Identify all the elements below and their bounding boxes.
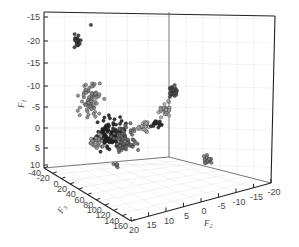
vertical-tick-label: 5 <box>35 143 40 153</box>
vertical-tick-label: 0 <box>35 123 40 133</box>
cluster-6 <box>136 120 151 133</box>
horizontal-tick-label: -15 <box>250 192 263 202</box>
horizontal-tick-label: 20 <box>129 225 139 235</box>
depth-axis-title: F3 <box>55 203 69 217</box>
depth-tick-label: -20 <box>37 173 50 183</box>
horizontal-tick-label: 5 <box>184 211 189 221</box>
horizontal-tick-label: 15 <box>146 220 156 230</box>
vertical-tick-label: -5 <box>32 102 40 112</box>
cluster-8 <box>157 99 171 119</box>
horizontal-tick-label: -5 <box>217 201 225 211</box>
horizontal-tick-label: -10 <box>232 197 245 207</box>
horizontal-tick-label: 10 <box>164 216 174 226</box>
cluster-2 <box>76 82 106 119</box>
cluster-10 <box>202 153 213 164</box>
horizontal-axis-title: F2 <box>203 218 213 229</box>
scatter-3d-chart: -15-20-15-10-50510-40-200204060801001201… <box>0 0 299 247</box>
vertical-tick-label: -15 <box>27 12 40 22</box>
data-points <box>73 23 213 169</box>
cluster-1-outlier <box>89 23 92 26</box>
vertical-axis-title: F1 <box>16 100 27 110</box>
vertical-tick-label: -15 <box>27 58 40 68</box>
horizontal-tick-label: -20 <box>267 187 280 197</box>
cluster-9 <box>168 83 178 98</box>
depth-tick-label: 160 <box>113 221 128 231</box>
vertical-tick-label: -10 <box>27 81 40 91</box>
vertical-tick-label: -20 <box>27 36 40 46</box>
cluster-1 <box>73 32 83 49</box>
horizontal-tick-label: 0 <box>201 206 206 216</box>
